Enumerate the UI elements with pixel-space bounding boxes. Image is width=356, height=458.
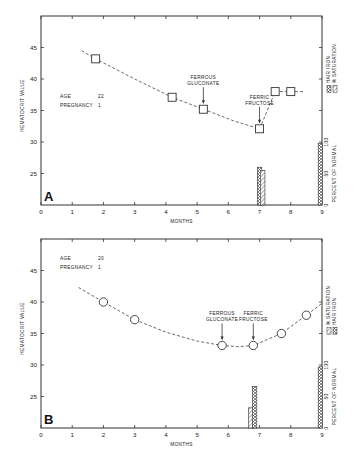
legend-swatch <box>333 327 337 334</box>
x-tick-label: 3 <box>133 431 137 438</box>
data-point-circle <box>99 298 107 306</box>
legend-label: % SATURATION <box>332 44 337 84</box>
y-tick-label: 40 <box>30 75 37 82</box>
x-tick-label: 0 <box>39 208 43 215</box>
y2-axis-label: PERCENT OF NORMAL <box>332 368 337 426</box>
annotation-label: FERROUS <box>191 75 217 80</box>
annotation-label: FRUCTOSE <box>239 317 268 322</box>
x-axis-label: MONTHS <box>170 219 193 224</box>
x-tick-label: 1 <box>70 208 74 215</box>
data-point-square <box>271 88 279 96</box>
y-tick-label: 45 <box>30 267 37 274</box>
bar-hair-iron <box>252 386 257 428</box>
x-tick-label: 2 <box>102 208 106 215</box>
bar-hair-iron <box>318 367 323 428</box>
y2-tick-label: 0 <box>324 203 329 206</box>
bar-hair-iron <box>318 143 323 205</box>
y-axis-label: HEMATOCRIT VALUE <box>20 79 25 132</box>
pregnancy-value: 1 <box>98 265 101 270</box>
bar--saturation <box>260 170 265 205</box>
panel-letter: A <box>44 189 54 204</box>
annotation-label: FERRIC <box>243 311 263 316</box>
arrowhead-icon <box>252 336 255 340</box>
legend-swatch <box>333 85 337 92</box>
x-tick-label: 8 <box>289 431 293 438</box>
age-label: AGE <box>60 256 71 261</box>
arrowhead-icon <box>202 100 205 104</box>
x-tick-label: 5 <box>195 431 199 438</box>
x-tick-label: 6 <box>227 431 231 438</box>
pregnancy-value: 1 <box>98 103 101 108</box>
y2-tick-label: 100 <box>324 361 329 370</box>
annotation-label: GLUCONATE <box>206 317 238 322</box>
x-tick-label: 7 <box>258 431 262 438</box>
age-value: 22 <box>98 94 104 99</box>
annotation-label: FERRIC <box>250 95 270 100</box>
y-tick-label: 30 <box>30 361 37 368</box>
x-tick-label: 9 <box>320 431 324 438</box>
chart-panel-a: 0123456789MONTHS2530354045HEMATOCRIT VAL… <box>20 16 337 224</box>
legend-label: HAIR IRON <box>326 56 331 84</box>
y2-axis-label: PERCENT OF NORMAL <box>332 145 337 203</box>
plot-frame <box>41 16 322 205</box>
y-tick-label: 45 <box>30 44 37 51</box>
y-tick-label: 25 <box>30 393 37 400</box>
data-point-square <box>256 125 264 133</box>
hematocrit-curve <box>79 288 323 347</box>
x-tick-label: 8 <box>289 208 293 215</box>
pregnancy-label: PREGNANCY <box>60 265 94 270</box>
age-label: AGE <box>60 94 71 99</box>
legend-swatch <box>327 327 331 334</box>
y-tick-label: 35 <box>30 330 37 337</box>
data-point-square <box>92 55 100 63</box>
x-tick-label: 6 <box>227 208 231 215</box>
y-tick-label: 35 <box>30 107 37 114</box>
x-tick-label: 5 <box>195 208 199 215</box>
arrowhead-icon <box>220 336 223 340</box>
hematocrit-figure: 0123456789MONTHS2530354045HEMATOCRIT VAL… <box>0 0 356 458</box>
x-tick-label: 0 <box>39 431 43 438</box>
x-tick-label: 1 <box>70 431 74 438</box>
y2-tick-label: 100 <box>324 138 329 147</box>
legend-swatch <box>327 85 331 92</box>
x-tick-label: 2 <box>102 431 106 438</box>
hematocrit-curve <box>82 51 304 129</box>
data-point-square <box>287 88 295 96</box>
y2-tick-label: 50 <box>324 394 329 400</box>
data-point-square <box>168 93 176 101</box>
annotation-label: FRUCTOSE <box>245 101 274 106</box>
x-tick-label: 4 <box>164 208 168 215</box>
y-tick-label: 40 <box>30 298 37 305</box>
annotation-label: FERROUS <box>209 311 235 316</box>
legend-label: % SATURATION <box>326 286 331 326</box>
arrowhead-icon <box>258 120 261 124</box>
y-tick-label: 25 <box>30 170 37 177</box>
data-point-square <box>199 105 207 113</box>
data-point-circle <box>277 329 285 337</box>
y-axis-label: HEMATOCRIT VALUE <box>20 302 25 355</box>
data-point-circle <box>218 341 226 349</box>
x-tick-label: 4 <box>164 431 168 438</box>
y2-tick-label: 0 <box>324 426 329 429</box>
x-tick-label: 7 <box>258 208 262 215</box>
y-tick-label: 30 <box>30 138 37 145</box>
x-axis-label: MONTHS <box>170 442 193 447</box>
panel-letter: B <box>44 412 53 427</box>
age-value: 20 <box>98 256 104 261</box>
data-point-circle <box>130 315 138 323</box>
data-point-circle <box>249 341 257 349</box>
x-tick-label: 3 <box>133 208 137 215</box>
pregnancy-label: PREGNANCY <box>60 103 94 108</box>
data-point-circle <box>302 311 310 319</box>
chart-panel-b: 0123456789MONTHS2530354045HEMATOCRIT VAL… <box>20 239 337 447</box>
legend-label: HAIR IRON <box>332 297 337 325</box>
y2-tick-label: 50 <box>324 171 329 177</box>
annotation-label: GLUCONATE <box>187 81 219 86</box>
x-tick-label: 9 <box>320 208 324 215</box>
